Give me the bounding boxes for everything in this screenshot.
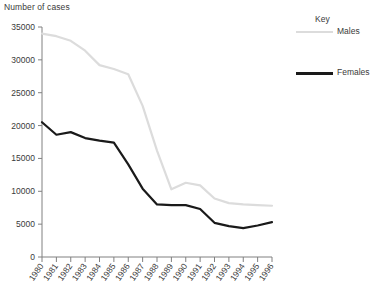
y-axis-tick-label: 5000	[16, 219, 35, 229]
y-axis-tick-label: 10000	[11, 186, 35, 196]
legend-swatch-females-icon	[296, 72, 333, 75]
x-axis: 1980198119821983198419851986198719881989…	[27, 257, 276, 283]
series-line-males	[42, 34, 272, 206]
y-axis-tick-label: 35000	[11, 22, 35, 32]
y-axis-tick-label: 20000	[11, 121, 35, 131]
y-axis-tick-label: 15000	[11, 153, 35, 163]
legend: Key Males Females	[296, 14, 362, 80]
data-series-group	[42, 34, 272, 229]
y-axis-tick-label: 30000	[11, 55, 35, 65]
legend-swatch-males-icon	[296, 31, 333, 33]
series-line-females	[42, 122, 272, 228]
legend-label-females: Females	[337, 67, 370, 77]
legend-item-females: Females	[296, 67, 362, 80]
legend-title: Key	[315, 14, 362, 24]
x-axis-tick-label: 1996	[257, 261, 276, 282]
y-axis-tick-label: 25000	[11, 88, 35, 98]
y-axis: 05000100001500020000250003000035000	[11, 22, 42, 262]
y-axis-tick-label: 0	[30, 252, 35, 262]
legend-label-males: Males	[337, 26, 360, 36]
legend-item-males: Males	[296, 26, 362, 39]
